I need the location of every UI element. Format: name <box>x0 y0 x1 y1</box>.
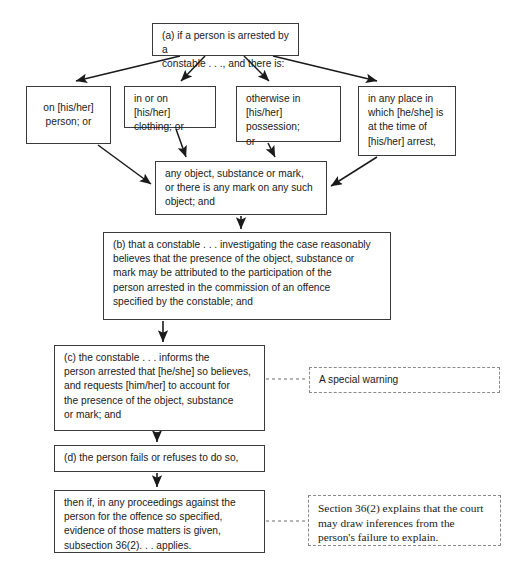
node-clause-d: (d) the person fails or refuses to do so… <box>54 445 265 472</box>
edge-opt1-to-object <box>98 145 151 184</box>
edge-opt3-to-object <box>268 143 275 157</box>
node-then-applies: then if, in any proceedings against the … <box>54 490 265 553</box>
flowchart-canvas: (a) if a person is arrested by a constab… <box>0 0 527 574</box>
edge-a-to-opt4 <box>273 56 377 81</box>
node-object-substance-mark: any object, substance or mark, or there … <box>155 161 327 215</box>
node-option-in-any-place: in any place in which [he/she] is at the… <box>358 86 456 156</box>
annotation-section-36-2: Section 36(2) explains that the court ma… <box>308 495 501 546</box>
node-option-in-possession: otherwise in [his/her] possession; or <box>236 86 341 142</box>
node-clause-b: (b) that a constable . . . investigating… <box>103 232 391 320</box>
node-option-on-clothing: in or on [his/her] clothing; or <box>124 86 216 128</box>
edge-opt4-to-object <box>331 157 377 186</box>
node-clause-a: (a) if a person is arrested by a constab… <box>152 23 299 56</box>
node-clause-c: (c) the constable . . . informs the pers… <box>54 345 265 431</box>
annotation-special-warning: A special warning <box>309 367 500 393</box>
node-option-on-person: on [his/her] person; or <box>26 86 111 144</box>
